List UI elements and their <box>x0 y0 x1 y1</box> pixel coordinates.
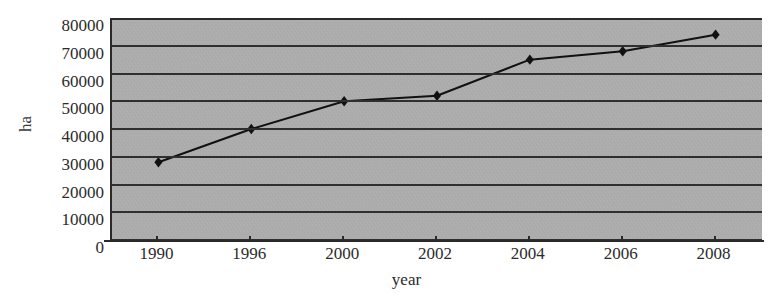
plot-area <box>110 18 762 240</box>
gridline <box>112 73 762 75</box>
x-axis-tick-label: 1996 <box>209 244 289 264</box>
x-axis-tick-label: 2008 <box>674 244 754 264</box>
y-axis-tick-label: 60000 <box>34 74 104 90</box>
data-point-marker <box>526 54 534 64</box>
y-axis-tick-label: 40000 <box>34 129 104 145</box>
y-axis-tick-label: 80000 <box>34 18 104 34</box>
x-axis-tick-label: 2000 <box>302 244 382 264</box>
x-axis-tick-mark <box>435 236 437 242</box>
x-axis-title: year <box>0 270 775 290</box>
y-axis-tick-label: 10000 <box>34 212 104 228</box>
data-point-marker <box>619 46 627 56</box>
y-axis-tick-label: 30000 <box>34 157 104 173</box>
x-axis-line <box>104 240 764 242</box>
gridline <box>112 45 762 47</box>
x-axis-tick-mark <box>528 236 530 242</box>
x-axis-tick-label: 1990 <box>116 244 196 264</box>
data-point-marker <box>712 29 720 39</box>
line-chart-figure: ha 8000070000600005000040000300002000010… <box>0 0 775 297</box>
x-axis-title-text: year <box>354 270 421 289</box>
y-axis-tick-labels: 8000070000600005000040000300002000010000… <box>34 10 104 248</box>
y-axis-tick-label: 50000 <box>34 101 104 117</box>
y-axis-tick-label: 0 <box>34 240 104 256</box>
y-axis-tick-label: 70000 <box>34 46 104 62</box>
gridline <box>112 184 762 186</box>
x-axis-tick-mark <box>249 236 251 242</box>
x-axis-tick-mark <box>621 236 623 242</box>
y-axis-title: ha <box>16 104 36 144</box>
x-axis-tick-label: 2006 <box>581 244 661 264</box>
x-axis-tick-mark <box>342 236 344 242</box>
gridline <box>112 128 762 130</box>
x-axis-tick-label: 2002 <box>395 244 475 264</box>
gridline <box>112 100 762 102</box>
gridline <box>112 156 762 158</box>
x-axis-tick-label: 2004 <box>488 244 568 264</box>
x-axis-tick-labels: 1990199620002002200420062008 <box>110 244 760 270</box>
data-point-marker <box>154 157 162 167</box>
gridline <box>112 211 762 213</box>
x-axis-tick-mark <box>714 236 716 242</box>
chart-title <box>0 0 775 2</box>
y-axis-tick-label: 20000 <box>34 185 104 201</box>
x-axis-tick-mark <box>156 236 158 242</box>
